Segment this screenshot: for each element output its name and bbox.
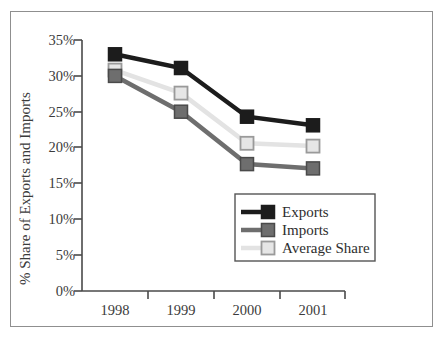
y-axis-title: % Share of Exports and Imports (17, 92, 33, 285)
legend-marker-average-share (262, 242, 275, 255)
data-point-marker (307, 140, 320, 153)
x-tick-label: 2001 (299, 302, 328, 318)
data-point-marker (241, 158, 254, 171)
y-axis-tick-labels: 35% 30% 25% 20% 15% 10% 5% 0% (48, 32, 75, 299)
legend-label-exports: Exports (282, 204, 329, 220)
data-point-marker (241, 110, 254, 123)
legend-label-average-share: Average Share (282, 240, 370, 256)
x-tick-label: 1998 (101, 302, 130, 318)
data-point-marker (175, 105, 188, 118)
data-point-marker (307, 162, 320, 175)
data-point-marker (109, 48, 122, 61)
data-point-marker (175, 62, 188, 75)
data-point-marker (307, 119, 320, 132)
data-point-marker (109, 69, 122, 82)
y-tick-label: 10% (48, 211, 75, 227)
x-axis-tick-labels: 1998 1999 2000 2001 (101, 302, 328, 318)
legend-marker-imports (262, 224, 275, 237)
y-tick-label: 25% (48, 104, 75, 120)
y-tick-label: 35% (48, 32, 75, 48)
x-axis (82, 291, 345, 299)
legend-label-imports: Imports (282, 222, 329, 238)
series-line-average-share (115, 70, 313, 146)
y-tick-label: 15% (48, 175, 75, 191)
y-tick-label: 20% (48, 139, 75, 155)
y-tick-label: 5% (56, 247, 75, 263)
line-chart: % Share of Exports and Imports 35% 30% 2… (0, 0, 445, 340)
y-tick-label: 0% (56, 283, 75, 299)
x-tick-label: 1999 (167, 302, 196, 318)
y-axis (74, 40, 82, 291)
data-point-marker (175, 87, 188, 100)
figure-root: % Share of Exports and Imports 35% 30% 2… (0, 0, 445, 340)
legend-marker-exports (262, 206, 275, 219)
x-tick-label: 2000 (233, 302, 262, 318)
y-tick-label: 30% (48, 68, 75, 84)
data-point-marker (241, 137, 254, 150)
chart-legend: Exports Imports Average Share (235, 194, 375, 261)
